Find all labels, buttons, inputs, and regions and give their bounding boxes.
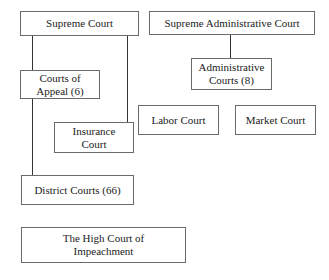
connector-supreme-admin-to-admin [230, 34, 231, 58]
node-supreme-administrative-court: Supreme Administrative Court [149, 11, 315, 35]
node-label-line2: Appeal (6) [36, 85, 83, 98]
node-supreme-court: Supreme Court [20, 11, 139, 36]
node-high-court-of-impeachment: The High Court of Impeachment [21, 227, 186, 263]
node-administrative-courts: Administrative Courts (8) [191, 58, 272, 90]
node-label-line2: Courts (8) [209, 74, 254, 87]
node-courts-of-appeal: Courts of Appeal (6) [20, 70, 100, 99]
node-market-court: Market Court [235, 105, 316, 135]
connector-supreme-to-insurance [127, 35, 128, 122]
node-label: Supreme Administrative Court [164, 17, 299, 30]
node-labor-court: Labor Court [138, 105, 219, 135]
node-district-courts: District Courts (66) [21, 175, 134, 205]
node-insurance-court: Insurance Court [54, 122, 134, 153]
connector-supreme-to-appeal [32, 35, 33, 70]
connector-appeal-to-district [32, 98, 33, 175]
node-label-line1: Courts of [39, 72, 80, 85]
node-label: District Courts (66) [34, 184, 120, 197]
node-label-line2: Impeachment [74, 245, 134, 258]
node-label-line1: Administrative [199, 61, 265, 74]
node-label-line1: Insurance [73, 125, 116, 138]
node-label: Labor Court [151, 114, 205, 127]
node-label-line1: The High Court of [63, 232, 145, 245]
node-label: Supreme Court [46, 17, 113, 30]
node-label-line2: Court [81, 138, 106, 151]
node-label: Market Court [246, 114, 306, 127]
